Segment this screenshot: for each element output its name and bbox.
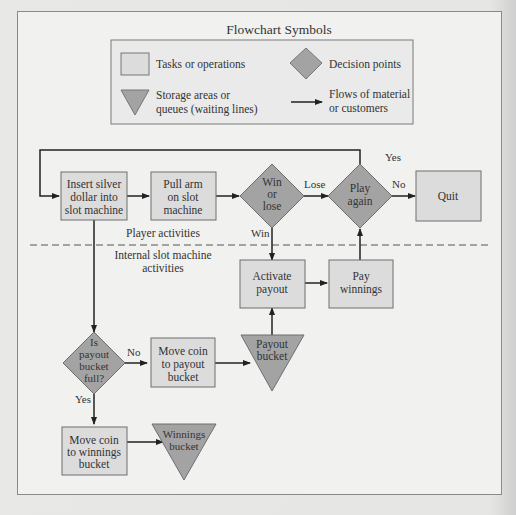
node-label: bucket (169, 440, 198, 452)
legend-task-label: Tasks or operations (156, 58, 246, 71)
edge-label-win: Win (251, 227, 270, 239)
flowchart: Flowchart Symbols Tasks or operations De… (0, 0, 516, 515)
node-label: to payout (161, 358, 205, 371)
node-label: slot machine (65, 204, 123, 216)
legend-flow-label-2: or customers (329, 102, 389, 114)
node-label: full? (84, 372, 104, 384)
node-label: dollar into (70, 191, 118, 203)
node-label: lose (263, 200, 282, 212)
node-label: Activate (253, 270, 292, 282)
legend-task-icon (121, 53, 149, 75)
node-label: Pull arm (163, 178, 202, 190)
internal-activities-label-1: Internal slot machine (114, 249, 211, 261)
node-label: bucket (79, 458, 110, 470)
node-label: on slot (168, 191, 200, 203)
legend-title: Flowchart Symbols (226, 22, 331, 37)
node-label: or (267, 188, 277, 200)
node-label: Move coin (69, 434, 119, 446)
node-label: machine (164, 204, 203, 216)
node-label: bucket (257, 350, 288, 362)
edge-label-no-full: No (127, 346, 141, 358)
node-label: Pay (352, 270, 370, 283)
edge-label-yes-full: Yes (75, 393, 91, 405)
node-label: Is (90, 336, 98, 348)
legend-storage-label-2: queues (waiting lines) (156, 103, 258, 116)
node-label: Winnings (163, 428, 205, 440)
node-label: payout (79, 348, 109, 360)
node-label: Move coin (158, 345, 208, 357)
player-activities-label: Player activities (126, 227, 200, 240)
node-label: Quit (438, 190, 459, 202)
node-label: payout (256, 283, 288, 296)
legend-storage-label-1: Storage areas or (156, 89, 230, 102)
legend-decision-label: Decision points (329, 58, 401, 71)
node-label: bucket (168, 371, 199, 383)
node-label: Play (350, 182, 371, 195)
edge-label-lose: Lose (304, 178, 326, 190)
legend-flow-label-1: Flows of material (329, 88, 410, 100)
internal-activities-label-2: activities (142, 262, 184, 274)
node-label: again (348, 195, 373, 208)
node-label: Insert silver (67, 178, 122, 190)
node-label: Win (262, 176, 282, 188)
edge-label-yes-play: Yes (385, 151, 401, 163)
node-label: winnings (340, 283, 383, 296)
edge-label-no-quit: No (392, 178, 406, 190)
legend: Flowchart Symbols Tasks or operations De… (111, 22, 413, 124)
node-label: bucket (79, 360, 108, 372)
